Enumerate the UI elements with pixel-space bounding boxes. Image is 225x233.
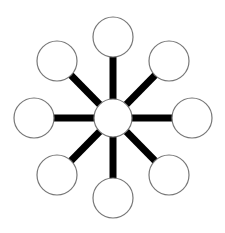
node-upper-right xyxy=(149,41,189,81)
node-left xyxy=(14,98,54,138)
node-bottom xyxy=(93,178,133,218)
hub-node xyxy=(94,99,132,137)
hub-and-spoke-diagram xyxy=(0,0,225,233)
node-upper-left xyxy=(37,41,77,81)
node-right xyxy=(172,98,212,138)
node-lower-right xyxy=(149,155,189,195)
node-top xyxy=(93,17,133,57)
hub-group xyxy=(94,99,132,137)
node-lower-left xyxy=(37,155,77,195)
